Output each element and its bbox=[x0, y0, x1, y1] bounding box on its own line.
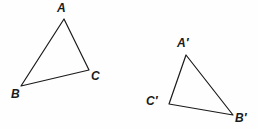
vertex-label-c: C bbox=[91, 70, 100, 82]
vertex-label-b-prime: B′ bbox=[235, 112, 247, 124]
vertex-label-b: B bbox=[11, 88, 20, 100]
triangle-abc-prime-shape bbox=[169, 55, 233, 115]
vertex-label-c-prime: C′ bbox=[146, 95, 158, 107]
geometry-figure: A B C A′ C′ B′ bbox=[0, 0, 259, 129]
triangle-abc-shape bbox=[21, 19, 89, 86]
vertex-label-a-prime: A′ bbox=[177, 37, 189, 49]
triangles-canvas bbox=[0, 0, 259, 129]
vertex-label-a: A bbox=[57, 2, 66, 14]
